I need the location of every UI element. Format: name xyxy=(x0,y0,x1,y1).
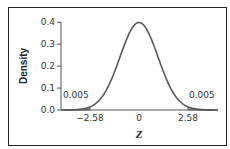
x-tick-label: −2.58 xyxy=(76,113,104,123)
x-tick-label: 2.58 xyxy=(178,113,198,123)
y-axis-label: Density xyxy=(18,48,29,85)
normal-distribution-chart: 0.00.10.20.30.4 −2.5802.58 Density Z 0.0… xyxy=(0,0,230,149)
left-tail-area-label: 0.005 xyxy=(63,90,89,100)
x-ticks: −2.5802.58 xyxy=(76,113,198,123)
y-tick-label: 0.3 xyxy=(41,39,55,49)
y-tick-label: 0.1 xyxy=(41,83,55,93)
y-ticks: 0.00.10.20.30.4 xyxy=(41,17,61,115)
x-tick-label: 0 xyxy=(136,113,142,123)
right-tail-area-label: 0.005 xyxy=(189,90,215,100)
y-tick-label: 0.0 xyxy=(41,105,56,115)
y-tick-label: 0.4 xyxy=(41,17,56,27)
x-axis-label: Z xyxy=(135,128,143,140)
y-tick-label: 0.2 xyxy=(41,61,55,71)
